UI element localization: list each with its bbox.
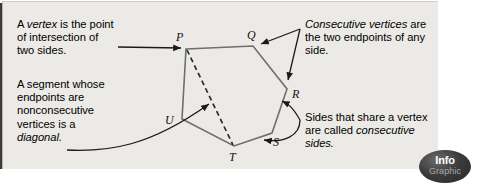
diagonal-line-pt [187, 50, 233, 145]
polygon-diagram: P Q R S T U [0, 0, 477, 189]
vertex-label-q: Q [247, 28, 256, 42]
arrow-vertex-to-p [118, 47, 181, 48]
vertex-label-r: R [291, 87, 300, 101]
badge-graphic-label: Graphic [419, 166, 471, 176]
vertex-label-t: T [229, 150, 237, 164]
vertex-label-p: P [175, 30, 184, 44]
vertex-label-s: S [273, 135, 279, 149]
arrow-consecutive-sides-to-rs [282, 101, 300, 120]
arrow-consecutive-sides-to-st [264, 120, 300, 141]
hexagon-outline [182, 46, 287, 146]
arrow-consecutive-vertices-to-r [288, 29, 300, 80]
arrow-diagonal-to-line [67, 104, 209, 150]
arrow-consecutive-vertices-to-q [261, 29, 300, 44]
vertex-label-u: U [165, 113, 175, 127]
badge-info-label: Info [419, 154, 471, 166]
info-graphic-badge: Info Graphic [419, 150, 471, 183]
infographic-container: A vertex is the point of intersection of… [0, 0, 477, 189]
